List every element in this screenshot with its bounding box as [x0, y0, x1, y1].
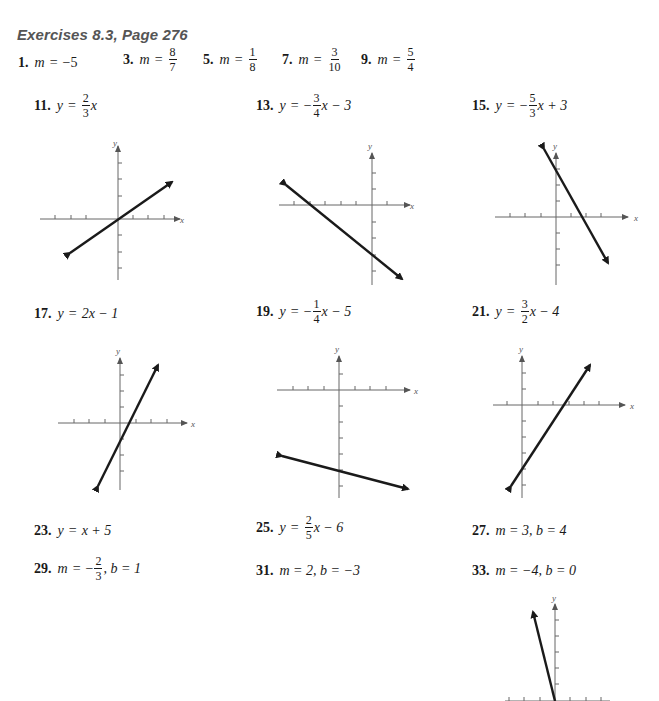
fraction: 18	[249, 46, 257, 73]
variable: y	[58, 307, 64, 321]
graph-33: y	[500, 590, 659, 701]
exercise-number: 7.	[282, 53, 293, 67]
equation-rest: 2x − 1	[82, 307, 119, 321]
exercise-number: 33.	[472, 564, 490, 578]
x-axis-label: x	[633, 213, 638, 223]
equals: =	[507, 305, 515, 319]
equals: =	[291, 521, 299, 535]
exercise-13: 13. y = − 34 x − 3	[256, 92, 351, 119]
variable: m	[58, 562, 68, 576]
equation-text: m = 3, b = 4	[496, 524, 567, 538]
fraction: 53	[529, 92, 537, 119]
exercise-31: 31. m = 2, b = −3	[256, 564, 360, 578]
exercise-number: 17.	[34, 307, 52, 321]
equation-rest: x − 3	[322, 99, 352, 113]
sign: −	[304, 305, 312, 319]
x-axis-label: x	[629, 401, 634, 411]
equals: =	[291, 99, 299, 113]
plotted-line	[511, 365, 590, 486]
exercise-27: 27. m = 3, b = 4	[472, 524, 567, 538]
exercise-number: 13.	[256, 99, 274, 113]
x-axis-label: x	[413, 386, 418, 396]
y-axis-label: y	[115, 346, 120, 356]
exercise-number: 1.	[18, 56, 29, 70]
equals: =	[507, 99, 515, 113]
equation-rest: x − 6	[314, 521, 344, 535]
graph-15: x y	[490, 135, 659, 295]
y-axis-label: y	[518, 344, 523, 354]
exercise-number: 25.	[256, 521, 274, 535]
plotted-line	[70, 182, 172, 253]
exercise-number: 15.	[472, 99, 490, 113]
x-axis-label: x	[179, 215, 184, 225]
plotted-line	[282, 456, 408, 489]
exercise-19: 19. y = − 14 x − 5	[256, 298, 351, 325]
y-axis-label: y	[112, 140, 117, 148]
variable: y	[280, 521, 286, 535]
exercise-number: 11.	[34, 99, 51, 113]
variable: y	[280, 305, 286, 319]
fraction: 14	[313, 298, 321, 325]
exercise-number: 9.	[361, 53, 372, 67]
exercise-number: 29.	[34, 562, 52, 576]
fraction: 23	[94, 555, 102, 582]
sign: −	[304, 99, 312, 113]
fraction: 23	[82, 92, 90, 119]
y-axis-label: y	[367, 141, 372, 151]
equals: =	[314, 53, 322, 67]
variable: m	[35, 56, 45, 70]
equals: =	[73, 562, 81, 576]
fraction: 32	[521, 298, 529, 325]
variable: m	[140, 53, 150, 67]
exercise-9: 9. m = 54	[361, 46, 416, 73]
exercise-11: 11. y = 23 x	[34, 92, 97, 119]
equation-text: m = −4, b = 0	[496, 564, 576, 578]
variable: m	[220, 53, 230, 67]
page-title: Exercises 8.3, Page 276	[17, 26, 188, 43]
equation-rest: , b = 1	[103, 562, 140, 576]
equals: =	[155, 53, 163, 67]
exercise-3: 3. m = 87	[123, 46, 178, 73]
plotted-line	[544, 149, 608, 263]
exercise-number: 3.	[123, 53, 134, 67]
graph-17: x y	[55, 340, 205, 500]
exercise-25: 25. y = 25 x − 6	[256, 514, 343, 541]
equals: =	[393, 53, 401, 67]
equation-rest: x − 4	[530, 305, 560, 319]
y-axis-label: y	[552, 141, 557, 151]
plotted-line	[98, 365, 158, 486]
exercise-17: 17. y = 2x − 1	[34, 307, 118, 321]
equals: =	[69, 524, 77, 538]
exercise-33: 33. m = −4, b = 0	[472, 564, 576, 578]
equals: =	[291, 305, 299, 319]
exercise-number: 27.	[472, 524, 490, 538]
graph-13: x y	[270, 135, 430, 295]
exercise-number: 23.	[34, 524, 52, 538]
x-axis-label: x	[190, 419, 195, 429]
exercise-number: 19.	[256, 305, 274, 319]
x-axis-label: x	[409, 201, 414, 211]
variable: m	[299, 53, 309, 67]
exercise-29: 29. m = − 23 , b = 1	[34, 555, 141, 582]
equation-text: m = 2, b = −3	[280, 564, 360, 578]
graph-19: x y	[270, 340, 430, 500]
equals: =	[50, 56, 58, 70]
graph-21: x y	[490, 340, 659, 500]
exercise-7: 7. m = 310	[282, 46, 343, 73]
exercise-number: 21.	[472, 305, 490, 319]
exercise-number: 5.	[203, 53, 214, 67]
value: −5	[63, 56, 78, 70]
equals: =	[69, 307, 77, 321]
fraction: 310	[328, 46, 342, 73]
sign: −	[86, 562, 94, 576]
equation-rest: x	[91, 99, 97, 113]
exercise-5: 5. m = 18	[203, 46, 258, 73]
exercise-21: 21. y = 32 x − 4	[472, 298, 559, 325]
variable: y	[496, 305, 502, 319]
y-axis-label: y	[551, 593, 556, 603]
fraction: 25	[305, 514, 313, 541]
equals: =	[235, 53, 243, 67]
variable: y	[496, 99, 502, 113]
exercise-1: 1. m = −5	[18, 56, 77, 70]
graph-11: x y	[40, 140, 210, 300]
